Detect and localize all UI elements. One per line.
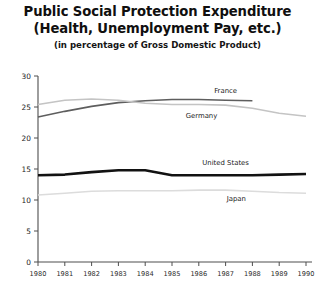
x-axis-tick-label: 1988 — [244, 270, 261, 278]
y-axis-tick-label: 20 — [22, 134, 32, 143]
chart-header: Public Social Protection Expenditure (He… — [0, 4, 315, 51]
x-axis: 1980198119821983198419851986198719881989… — [30, 262, 315, 278]
chart-plot-area: 051015202530 198019811982198319841985198… — [0, 63, 315, 291]
series-line-france — [38, 100, 252, 117]
series-line-japan — [38, 190, 306, 195]
page-subtitle: (in percentage of Gross Domestic Product… — [0, 39, 315, 51]
x-axis-tick-label: 1981 — [56, 270, 73, 278]
y-axis-tick-label: 5 — [26, 227, 31, 236]
y-axis-tick-label: 10 — [22, 196, 32, 205]
x-axis-tick-label: 1982 — [83, 270, 100, 278]
series-lines — [38, 99, 306, 195]
page-title-line-2: (Health, Unemployment Pay, etc.) — [0, 21, 315, 38]
series-label-france: France — [214, 87, 237, 95]
y-axis-tick-label: 0 — [26, 258, 31, 267]
series-label-united-states: United States — [202, 159, 249, 167]
x-axis-tick-label: 1990 — [298, 270, 315, 278]
line-chart: 051015202530 198019811982198319841985198… — [0, 63, 315, 291]
x-axis-tick-label: 1980 — [30, 270, 47, 278]
y-axis-tick-label: 30 — [22, 72, 32, 81]
page-title-line-1: Public Social Protection Expenditure — [0, 4, 315, 21]
x-axis-tick-label: 1985 — [164, 270, 181, 278]
x-axis-tick-label: 1983 — [110, 270, 127, 278]
chart-page: Public Social Protection Expenditure (He… — [0, 0, 315, 291]
y-axis-tick-label: 25 — [22, 103, 32, 112]
series-line-germany — [38, 99, 306, 116]
y-axis: 051015202530 — [22, 72, 38, 267]
x-axis-tick-label: 1984 — [137, 270, 154, 278]
x-axis-tick-label: 1987 — [217, 270, 234, 278]
series-line-united-states — [38, 170, 306, 175]
series-label-japan: Japan — [226, 195, 246, 203]
x-axis-tick-label: 1986 — [190, 270, 207, 278]
series-label-germany: Germany — [186, 112, 218, 120]
y-axis-tick-label: 15 — [22, 165, 32, 174]
x-axis-tick-label: 1989 — [271, 270, 288, 278]
